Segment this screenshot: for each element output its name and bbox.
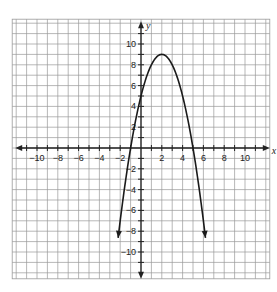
x-tick-label: 6: [201, 153, 206, 163]
y-tick-label: 6: [131, 81, 136, 91]
x-axis-label: x: [271, 145, 277, 156]
x-tick-label: 8: [222, 153, 227, 163]
y-axis-down-arrow-icon: [138, 272, 144, 279]
y-tick-label: 8: [131, 60, 136, 70]
x-tick-label: −2: [115, 153, 125, 163]
x-axis-right-arrow-icon: [263, 145, 270, 151]
y-axis-up-arrow-icon: [138, 21, 144, 28]
axes: [15, 21, 270, 279]
x-tick-label: −6: [73, 153, 83, 163]
y-tick-label: 4: [131, 101, 136, 111]
y-tick-label: −8: [126, 226, 136, 236]
x-tick-label: 4: [180, 153, 185, 163]
y-tick-label: −4: [126, 185, 136, 195]
y-axis-label: y: [145, 20, 151, 31]
x-tick-label: −8: [53, 153, 63, 163]
x-tick-label: 2: [159, 153, 164, 163]
coordinate-plane: −10−8−6−4−2246810108642−2−4−6−8−10 x y: [0, 0, 277, 292]
x-tick-label: −4: [94, 153, 104, 163]
x-tick-label: −10: [29, 153, 44, 163]
y-tick-label: −10: [121, 247, 136, 257]
x-tick-label: 10: [240, 153, 250, 163]
y-tick-label: 10: [126, 39, 136, 49]
y-tick-label: −6: [126, 205, 136, 215]
